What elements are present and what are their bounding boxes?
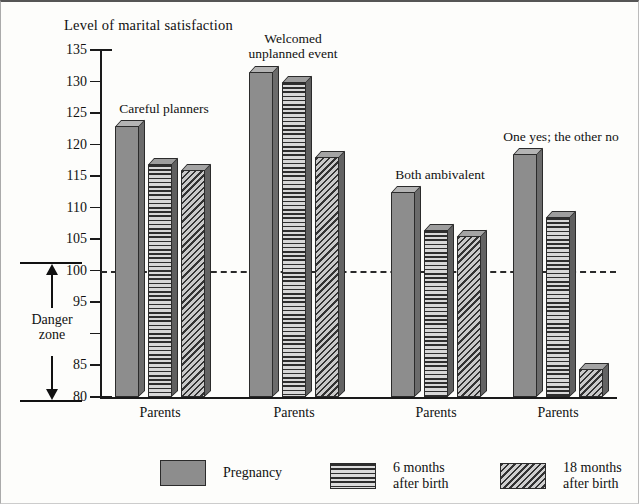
y-tick-label: 125 (66, 105, 87, 121)
bar-face (579, 369, 603, 397)
bar-face (457, 236, 481, 397)
bar-side-face (305, 75, 312, 397)
bar-side-face (138, 120, 145, 398)
danger-zone-arrowhead-up-icon (46, 264, 58, 275)
group-annotation-label: Careful planners (97, 101, 231, 116)
y-tick-mark (90, 270, 101, 272)
y-tick-mark (90, 238, 101, 240)
x-axis-label: Parents (376, 405, 496, 421)
bar[interactable] (513, 154, 537, 397)
bar[interactable] (315, 157, 339, 397)
bar-side-face (171, 157, 178, 397)
y-tick-label: 120 (66, 137, 87, 153)
bar-group: One yes; the other no (513, 50, 611, 397)
bar[interactable] (579, 369, 603, 397)
y-tick-mark (90, 396, 101, 398)
bar[interactable] (148, 164, 172, 397)
group-annotation-label: Welcomed unplanned event (223, 31, 363, 61)
chart-axis-title: Level of marital satisfaction (64, 17, 233, 34)
y-tick-label: 105 (66, 231, 87, 247)
bar-group: Welcomed unplanned event (249, 50, 347, 397)
plot-area: 13513012512011511010510095908580 Careful… (101, 50, 616, 397)
legend-item[interactable]: 18 months after birth (500, 460, 622, 491)
bar-face (513, 154, 537, 397)
x-axis-label: Parents (234, 405, 354, 421)
y-tick-label: 130 (66, 74, 87, 90)
chart-legend: Pregnancy6 months after birth18 months a… (0, 452, 639, 500)
group-annotation-label: One yes; the other no (471, 129, 639, 144)
bar-side-face (569, 211, 576, 397)
bar-side-face (536, 148, 543, 397)
bar[interactable] (115, 126, 139, 397)
y-tick-label: 115 (67, 168, 87, 184)
y-tick-label: 110 (67, 200, 87, 216)
bar[interactable] (249, 72, 273, 397)
bar-face (115, 126, 139, 397)
x-axis-label: Parents (498, 405, 618, 421)
bar[interactable] (391, 192, 415, 397)
bar-face (282, 82, 306, 397)
bar-group: Both ambivalent (391, 50, 489, 397)
y-tick-mark (90, 81, 101, 83)
bar-face (424, 230, 448, 397)
bar-side-face (272, 66, 279, 397)
legend-label: Pregnancy (223, 465, 282, 481)
x-axis-line (100, 397, 617, 399)
bar-side-face (447, 224, 454, 397)
bar[interactable] (546, 217, 570, 397)
y-tick-mark (90, 175, 101, 177)
danger-zone-annotation: Danger zone (14, 262, 90, 402)
bar[interactable] (424, 230, 448, 397)
danger-zone-bottom-cap (20, 400, 82, 402)
bar-side-face (204, 164, 211, 397)
legend-swatch (500, 463, 546, 489)
y-tick-mark (90, 333, 101, 335)
bar-face (148, 164, 172, 397)
legend-item[interactable]: Pregnancy (160, 460, 282, 486)
y-tick-mark (90, 49, 101, 51)
bar-face (391, 192, 415, 397)
bar-face (181, 170, 205, 397)
y-tick-mark (90, 207, 101, 209)
legend-swatch (160, 460, 206, 486)
bar-side-face (480, 230, 487, 397)
bar-face (546, 217, 570, 397)
bar[interactable] (181, 170, 205, 397)
legend-swatch (330, 463, 376, 489)
legend-label: 18 months after birth (563, 460, 622, 491)
bar-face (249, 72, 273, 397)
bar-side-face (414, 186, 421, 397)
y-tick-mark (90, 364, 101, 366)
group-annotation-label: Both ambivalent (373, 167, 507, 182)
bar[interactable] (282, 82, 306, 397)
y-tick-label: 135 (66, 42, 87, 58)
legend-label: 6 months after birth (393, 460, 449, 491)
bar[interactable] (457, 236, 481, 397)
bar-side-face (338, 151, 345, 397)
y-tick-mark (90, 144, 101, 146)
bar-group: Careful planners (115, 50, 213, 397)
x-axis-label: Parents (100, 405, 220, 421)
danger-zone-label: Danger zone (14, 310, 90, 345)
danger-zone-arrowhead-down-icon (46, 389, 58, 400)
bar-face (315, 157, 339, 397)
y-tick-mark (90, 301, 101, 303)
legend-item[interactable]: 6 months after birth (330, 460, 449, 491)
